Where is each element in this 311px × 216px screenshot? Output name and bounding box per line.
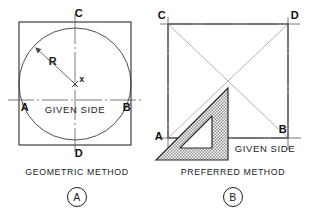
set-square-body: [156, 88, 228, 160]
panel-b-vertex-label-b: B: [279, 123, 288, 135]
panel-a-geometric-method: R x A B C D GIVEN SIDE GEOMETRIC METHOD …: [8, 7, 143, 207]
set-square-tool: [156, 88, 228, 160]
square-construction-figure: R x A B C D GIVEN SIDE GEOMETRIC METHOD …: [0, 0, 311, 216]
panel-a-vertex-label-d: D: [75, 147, 84, 159]
panel-a-badge-label: A: [73, 191, 81, 203]
panel-b-preferred-method: C D A B GIVEN SIDE PREFERRED METHOD B: [155, 9, 302, 207]
panel-a-vertex-label-a: A: [21, 101, 30, 113]
panel-b-vertex-label-a: A: [155, 130, 164, 142]
panel-a-caption: GEOMETRIC METHOD: [25, 167, 128, 177]
panel-b-caption: PREFERRED METHOD: [181, 167, 285, 177]
panel-a-radius-label: R: [49, 55, 58, 67]
panel-b-badge-label: B: [229, 191, 237, 203]
panel-a-vertex-label-b: B: [123, 101, 132, 113]
panel-a-vertex-label-c: C: [75, 7, 84, 19]
panel-a-badge: A: [68, 188, 87, 207]
panel-a-given-side-label: GIVEN SIDE: [45, 104, 105, 115]
panel-b-vertex-label-c: C: [158, 9, 167, 21]
panel-a-center-label: x: [79, 74, 85, 84]
figure-root: R x A B C D GIVEN SIDE GEOMETRIC METHOD …: [0, 0, 311, 216]
panel-b-badge: B: [224, 188, 243, 207]
panel-b-given-side-label: GIVEN SIDE: [235, 143, 295, 154]
panel-b-vertex-label-d: D: [291, 9, 300, 21]
